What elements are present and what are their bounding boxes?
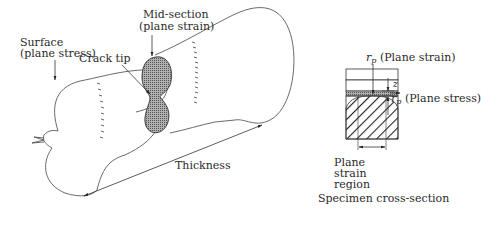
mid-section-zone bbox=[142, 57, 172, 133]
z-axis-label: z bbox=[393, 78, 398, 90]
dashes-far bbox=[192, 42, 198, 103]
dashes-near bbox=[97, 83, 104, 138]
mid-section-sublabel: (plane strain) bbox=[139, 21, 214, 33]
thickness-label: Thickness bbox=[175, 160, 231, 172]
region-label-3: region bbox=[334, 179, 370, 191]
cross-section-title: Specimen cross-section bbox=[318, 193, 449, 205]
rp-plane-strain-label: rp (Plane strain) bbox=[366, 52, 456, 67]
thickness-arrow bbox=[84, 125, 262, 196]
rp-plane-stress-label: rp (Plane stress) bbox=[391, 93, 481, 108]
crack-tip-label: Crack tip bbox=[79, 53, 131, 65]
